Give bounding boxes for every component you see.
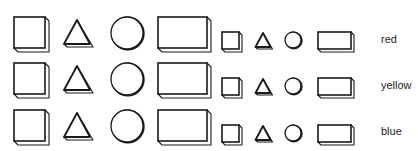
small-triangle-icon — [256, 33, 273, 49]
small-rectangle-icon — [318, 78, 354, 98]
large-circle-icon — [111, 110, 144, 143]
small-square-icon — [222, 32, 242, 52]
small-rectangle-icon — [318, 32, 354, 52]
small-rectangle-icon — [318, 125, 354, 145]
small-circle-icon — [285, 125, 302, 142]
large-rectangle-icon — [158, 63, 211, 98]
small-triangle-icon — [256, 126, 273, 142]
small-circle-icon — [285, 32, 302, 49]
large-rectangle-icon — [158, 110, 211, 145]
large-triangle-icon — [64, 113, 93, 140]
large-rectangle-icon — [158, 17, 211, 52]
large-circle-icon — [111, 63, 144, 96]
small-square-icon — [222, 125, 242, 145]
shape-row-red — [14, 17, 354, 52]
shape-row-yellow — [14, 63, 354, 98]
large-square-icon — [14, 17, 49, 52]
large-square-icon — [14, 63, 49, 98]
row-label-yellow: yellow — [381, 79, 412, 91]
shape-row-blue — [14, 110, 354, 145]
large-triangle-icon — [64, 66, 93, 93]
large-triangle-icon — [64, 20, 93, 47]
small-square-icon — [222, 78, 242, 98]
row-label-red: red — [381, 33, 397, 45]
shape-grid — [0, 0, 418, 151]
small-triangle-icon — [256, 79, 273, 95]
small-circle-icon — [285, 78, 302, 95]
large-circle-icon — [111, 17, 144, 50]
large-square-icon — [14, 110, 49, 145]
row-label-blue: blue — [381, 125, 402, 137]
